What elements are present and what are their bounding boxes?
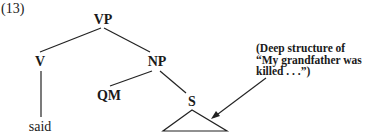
node-qm: QM bbox=[97, 89, 121, 103]
node-vp: VP bbox=[94, 13, 113, 27]
node-s: S bbox=[188, 95, 196, 109]
example-number: (13) bbox=[1, 2, 24, 16]
node-v: V bbox=[35, 55, 45, 69]
edge-np-qm bbox=[110, 71, 152, 86]
annotation-line: killed . . .”) bbox=[256, 66, 362, 78]
leaf-said: said bbox=[29, 120, 52, 134]
arrowhead-icon bbox=[211, 111, 220, 119]
node-np: NP bbox=[148, 55, 167, 69]
edge-np-s bbox=[160, 71, 186, 93]
edge-vp-v bbox=[40, 28, 101, 52]
annotation-arrow-shaft bbox=[214, 78, 266, 117]
annotation-note: (Deep structure of “My grandfather was k… bbox=[256, 43, 362, 78]
annotation-line: (Deep structure of bbox=[256, 43, 362, 55]
edge-vp-np bbox=[104, 28, 150, 52]
